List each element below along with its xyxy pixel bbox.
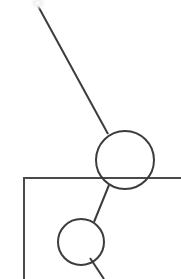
background	[0, 0, 181, 279]
diagram-canvas	[0, 0, 181, 279]
diagram-svg	[0, 0, 181, 279]
